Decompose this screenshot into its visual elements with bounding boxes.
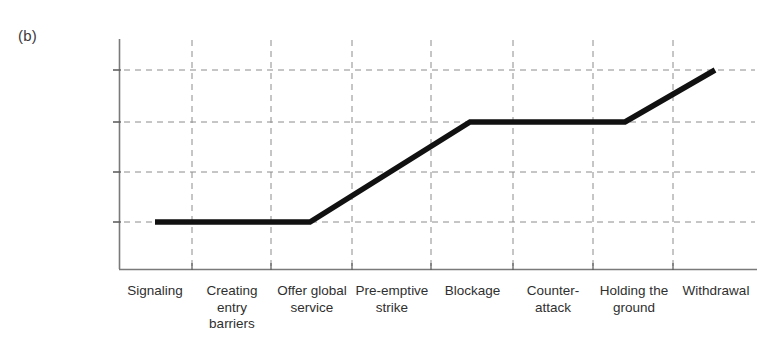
x-label-line: barriers <box>209 316 255 331</box>
x-label-line: Offer global <box>277 283 347 298</box>
x-label-line: Creating <box>206 283 257 298</box>
x-tick-label-signaling: Signaling <box>113 283 197 300</box>
x-label-line: Blockage <box>445 283 501 298</box>
figure-panel-b: (b) <box>0 0 770 353</box>
x-label-line: Pre-emptive <box>356 283 429 298</box>
x-label-line: Withdrawal <box>683 283 750 298</box>
x-tick-label-counter-attack: Counter- attack <box>512 283 594 316</box>
x-label-line: ground <box>613 300 655 315</box>
x-tick-label-blockage: Blockage <box>431 283 514 300</box>
x-tick-label-offer-global-service: Offer global service <box>270 283 354 316</box>
x-label-line: Signaling <box>127 283 183 298</box>
x-label-line: strike <box>376 300 408 315</box>
x-label-line: attack <box>535 300 571 315</box>
x-label-line: entry <box>217 300 247 315</box>
x-axis-labels: Signaling Creating entry barriers Offer … <box>0 0 770 353</box>
x-tick-label-holding-the-ground: Holding the ground <box>592 283 676 316</box>
x-tick-label-pre-emptive-strike: Pre-emptive strike <box>351 283 433 316</box>
x-label-line: Holding the <box>600 283 668 298</box>
x-tick-label-creating-entry-barriers: Creating entry barriers <box>191 283 273 333</box>
x-label-line: service <box>291 300 334 315</box>
x-tick-label-withdrawal: Withdrawal <box>673 283 759 300</box>
x-label-line: Counter- <box>527 283 580 298</box>
